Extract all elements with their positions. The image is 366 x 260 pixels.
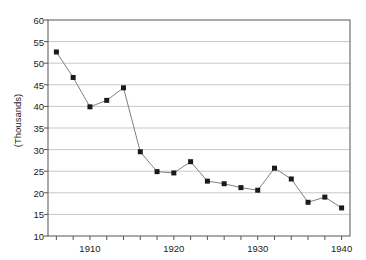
- x-axis-tick-label: 1920: [163, 243, 184, 254]
- x-axis-tick-label: 1940: [331, 243, 352, 254]
- x-axis-tick-label: 1910: [79, 243, 100, 254]
- line-chart: (Thousands) 1015202530354045505560 19101…: [0, 0, 366, 260]
- x-axis-tick-label: 1930: [247, 243, 268, 254]
- x-axis-tick-labels: 1910192019301940: [0, 0, 366, 260]
